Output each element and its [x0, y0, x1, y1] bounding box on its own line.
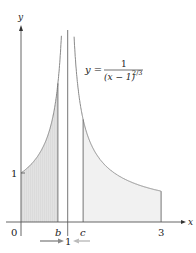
equation-exponent: 2/3 [132, 69, 142, 77]
x-tick-label-0: 0 [11, 227, 17, 238]
y-tick-label-1: 1 [11, 168, 17, 179]
equation-label: y = 1 (x − 1) 2/3 [84, 59, 143, 82]
equation-denominator: (x − 1) [104, 72, 136, 82]
x-axis-arrow-icon [181, 220, 186, 224]
shaded-region-right [83, 119, 161, 222]
y-axis-arrow-icon [19, 25, 23, 31]
x-tick-label-b: b [55, 227, 61, 238]
x-tick-label-c: c [80, 227, 86, 238]
equation-lhs: y = [84, 64, 102, 75]
y-axis-label: y [17, 12, 24, 22]
equation-numerator: 1 [121, 59, 127, 69]
asymptote-label: 1 [65, 236, 71, 247]
x-tick-label-3: 3 [158, 227, 164, 238]
arrow-right-icon [58, 239, 64, 244]
x-axis-label: x [188, 217, 193, 227]
improper-integral-plot: y x 1 0 b c 3 1 y = 1 (x − 1) 2/3 [0, 0, 196, 253]
